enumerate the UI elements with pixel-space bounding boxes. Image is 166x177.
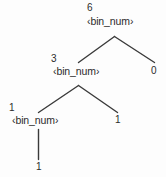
level4-leaf-symbol: 1: [36, 162, 42, 172]
level2-left-annotation: 3: [51, 54, 57, 64]
level3-left-symbol: ‹bin_num›: [12, 115, 58, 126]
tree-edge-layer: [0, 0, 166, 177]
edge-root-to-right: [115, 37, 155, 63]
root-annotation: 6: [87, 3, 93, 13]
level3-right-symbol: 1: [115, 115, 121, 125]
edge-root-to-left: [79, 37, 115, 63]
edge-level2-to-left: [39, 86, 79, 113]
edge-level2-to-right: [79, 86, 118, 113]
level2-right-symbol: 0: [151, 66, 157, 76]
level2-left-symbol: ‹bin_num›: [53, 66, 99, 77]
parse-tree-diagram: 6 ‹bin_num› 3 ‹bin_num› 0 1 ‹bin_num› 1 …: [0, 0, 166, 177]
root-symbol: ‹bin_num›: [87, 16, 133, 27]
level3-left-annotation: 1: [9, 103, 15, 113]
